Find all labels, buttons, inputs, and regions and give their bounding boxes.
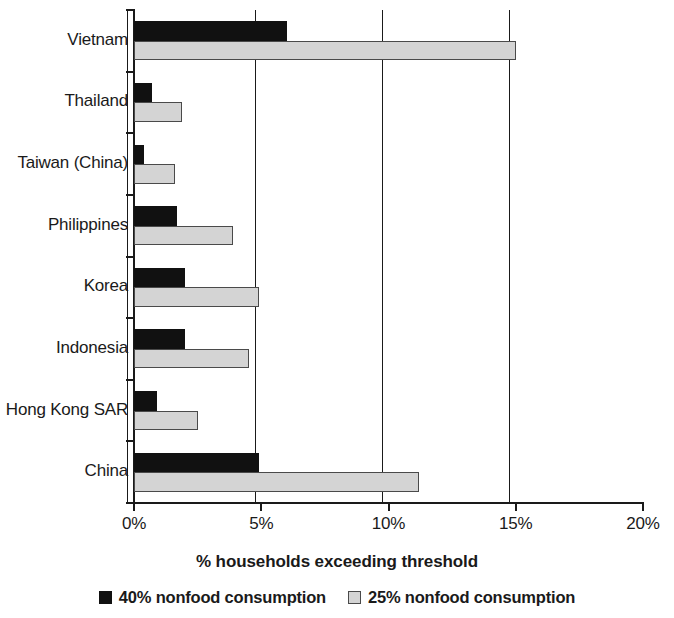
category-label: Taiwan (China) <box>0 153 128 173</box>
y-axis-tick <box>126 194 134 196</box>
x-axis-tick <box>260 503 262 511</box>
category-label: Indonesia <box>0 338 128 358</box>
x-tick-label: 10% <box>354 514 424 534</box>
category-label: Philippines <box>0 215 128 235</box>
bar <box>134 145 144 165</box>
bar <box>134 411 198 431</box>
y-axis-tick <box>126 379 134 381</box>
x-axis-tick <box>133 503 135 511</box>
legend-label: 40% nonfood consumption <box>119 588 326 607</box>
bar <box>134 41 516 61</box>
x-axis-tick <box>515 503 517 511</box>
bar <box>134 21 287 41</box>
gridline <box>382 10 383 503</box>
x-tick-label: 20% <box>608 514 674 534</box>
y-axis-tick <box>126 317 134 319</box>
legend-label: 25% nonfood consumption <box>368 588 575 607</box>
legend-swatch-icon <box>348 591 361 604</box>
x-axis-title: % households exceeding threshold <box>0 552 674 572</box>
x-tick-label: 5% <box>226 514 296 534</box>
category-label: China <box>0 461 128 481</box>
x-axis-tick <box>388 503 390 511</box>
bar <box>134 329 185 349</box>
category-label: Hong Kong SAR <box>0 400 128 420</box>
bar <box>134 391 157 411</box>
y-axis-tick <box>126 71 134 73</box>
bar <box>134 349 249 369</box>
bar-chart: VietnamThailandTaiwan (China)Philippines… <box>0 0 674 618</box>
bar <box>134 268 185 288</box>
bar <box>134 453 259 473</box>
bar <box>134 226 233 246</box>
y-axis-tick <box>126 132 134 134</box>
category-label: Vietnam <box>0 30 128 50</box>
chart-legend: 40% nonfood consumption25% nonfood consu… <box>0 588 674 607</box>
y-axis-tick <box>126 256 134 258</box>
legend-item: 40% nonfood consumption <box>99 588 326 607</box>
bar <box>134 164 175 184</box>
category-label: Thailand <box>0 91 128 111</box>
legend-swatch-icon <box>99 591 112 604</box>
category-label: Korea <box>0 276 128 296</box>
legend-item: 25% nonfood consumption <box>348 588 575 607</box>
x-tick-label: 15% <box>481 514 551 534</box>
gridline <box>255 10 256 503</box>
bar <box>134 472 419 492</box>
bar <box>134 287 259 307</box>
x-tick-label: 0% <box>99 514 169 534</box>
y-axis-tick <box>126 9 134 11</box>
bar <box>134 206 177 226</box>
bar <box>134 102 182 122</box>
bar <box>134 83 152 103</box>
x-axis-tick <box>642 503 644 511</box>
gridline <box>509 10 510 503</box>
y-axis-tick <box>126 440 134 442</box>
